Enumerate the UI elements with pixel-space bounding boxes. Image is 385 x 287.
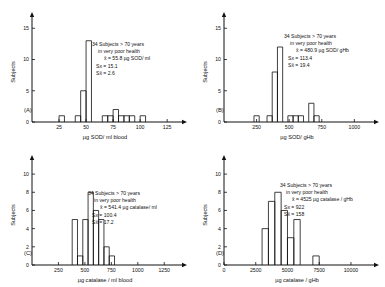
panel-annotation-line: in very poor health bbox=[94, 197, 136, 203]
y-tick-label: 5 bbox=[218, 88, 221, 94]
histogram-bar bbox=[313, 256, 319, 265]
x-axis-arrow bbox=[374, 263, 379, 267]
panel-c-plot: 250500750100012500246810µg catalase / ml… bbox=[0, 143, 193, 287]
y-tick-label: 8 bbox=[26, 189, 29, 195]
y-axis-arrow bbox=[30, 12, 34, 17]
histogram-bar bbox=[99, 220, 104, 265]
histogram-bar bbox=[288, 116, 293, 122]
histogram-bar bbox=[77, 256, 82, 265]
histogram-bar bbox=[268, 201, 274, 265]
panel-annotation-line: x̄ = 55.8 µg SOD/ ml bbox=[104, 55, 150, 61]
y-axis-arrow bbox=[30, 155, 34, 160]
panel-annotation-line: in very poor health bbox=[286, 189, 328, 195]
histogram-bar bbox=[314, 116, 319, 122]
y-tick-label: 6 bbox=[26, 207, 29, 213]
histogram-bar bbox=[262, 229, 268, 265]
panel-annotation-line: 34 Subjects > 70 years bbox=[284, 33, 336, 39]
y-axis-arrow bbox=[222, 155, 226, 160]
y-tick-label: 10 bbox=[23, 56, 29, 62]
histogram-bar bbox=[277, 47, 282, 122]
histogram-bar bbox=[109, 256, 114, 265]
x-tick-label: 50 bbox=[83, 124, 89, 130]
panel-annotation-line: x̄ = 480.9 µg SOD/ gHb bbox=[296, 47, 349, 53]
panel-annotation-line: Sx = 15.1 bbox=[96, 63, 118, 69]
panel-label: (B) bbox=[216, 107, 224, 113]
x-tick-label: 125 bbox=[163, 124, 172, 130]
x-axis-title: µg catalase / gHb bbox=[275, 277, 319, 283]
y-tick-label: 0 bbox=[26, 119, 29, 125]
x-tick-label: 2500 bbox=[250, 267, 262, 273]
histogram-bar bbox=[298, 116, 303, 122]
panel-b-plot: 2505007501000051015µg SOD/ gHbSubjects(B… bbox=[192, 0, 385, 144]
panel-label: (A) bbox=[24, 107, 32, 113]
histogram-bar bbox=[108, 116, 113, 122]
histogram-bar bbox=[124, 116, 129, 122]
panel-label: (C) bbox=[24, 250, 32, 256]
y-tick-label: 2 bbox=[26, 244, 29, 250]
histogram-bar bbox=[59, 116, 64, 122]
x-tick-label: 500 bbox=[81, 267, 90, 273]
x-tick-label: 750 bbox=[107, 267, 116, 273]
x-tick-label: 0 bbox=[223, 267, 226, 273]
histogram-bar bbox=[102, 116, 107, 122]
y-tick-label: 0 bbox=[218, 119, 221, 125]
panel-annotation-line: in very poor health bbox=[98, 48, 140, 54]
histogram-bar bbox=[129, 116, 134, 122]
histogram-bar bbox=[294, 220, 300, 265]
panel-label: (D) bbox=[216, 250, 224, 256]
x-axis-arrow bbox=[374, 120, 379, 124]
histogram-bar bbox=[75, 116, 80, 122]
x-tick-label: 1250 bbox=[158, 267, 170, 273]
panel-annotation-line: Sx̄ = 158 bbox=[284, 211, 304, 217]
histogram-bar bbox=[267, 116, 272, 122]
x-tick-label: 5000 bbox=[282, 267, 294, 273]
y-tick-label: 5 bbox=[26, 88, 29, 94]
histogram-bar bbox=[72, 220, 77, 265]
histogram-bar bbox=[272, 72, 277, 122]
histogram-bar bbox=[309, 103, 314, 122]
y-tick-label: 2 bbox=[218, 244, 221, 250]
y-axis-arrow bbox=[222, 12, 226, 17]
x-axis-title: µg SOD/ ml blood bbox=[83, 134, 127, 140]
panel-annotation-line: Sx = 100.4 bbox=[92, 212, 117, 218]
x-tick-label: 250 bbox=[54, 267, 63, 273]
histogram-bar bbox=[119, 116, 124, 122]
x-tick-label: 1000 bbox=[132, 267, 144, 273]
x-axis-title: µg SOD/ gHb bbox=[280, 134, 313, 140]
panel-annotation-line: 34 Subjects > 70 years bbox=[88, 190, 140, 196]
histogram-bar bbox=[83, 220, 88, 265]
panel-annotation-line: Sx̄ = 19.4 bbox=[288, 62, 310, 68]
y-tick-label: 15 bbox=[215, 25, 221, 31]
y-tick-label: 0 bbox=[218, 262, 221, 268]
y-tick-label: 15 bbox=[23, 25, 29, 31]
histogram-bar bbox=[293, 116, 298, 122]
x-tick-label: 75 bbox=[110, 124, 116, 130]
histogram-bar bbox=[86, 41, 91, 122]
y-tick-label: 10 bbox=[215, 171, 221, 177]
y-axis-title: Subjects bbox=[10, 61, 16, 83]
histogram-bar bbox=[140, 116, 145, 122]
x-tick-label: 100 bbox=[136, 124, 145, 130]
y-tick-label: 6 bbox=[218, 207, 221, 213]
panel-annotation-line: Sx̄ = 2.6 bbox=[96, 70, 115, 76]
x-tick-label: 10000 bbox=[344, 267, 359, 273]
histogram-bar bbox=[281, 210, 287, 265]
panel-d: 0250050007500100000246810µg catalase / g… bbox=[192, 143, 385, 287]
histogram-bar bbox=[81, 91, 86, 122]
panel-annotation-line: 34 Subjects > 70 years bbox=[280, 182, 332, 188]
x-tick-label: 7500 bbox=[313, 267, 325, 273]
y-tick-label: 10 bbox=[215, 56, 221, 62]
y-tick-label: 8 bbox=[218, 189, 221, 195]
y-tick-label: 4 bbox=[26, 226, 29, 232]
y-tick-label: 0 bbox=[26, 262, 29, 268]
x-tick-label: 500 bbox=[285, 124, 294, 130]
x-tick-label: 750 bbox=[317, 124, 326, 130]
x-tick-label: 250 bbox=[252, 124, 261, 130]
x-axis-title: µg catalase / ml blood bbox=[78, 277, 133, 283]
panel-b: 2505007501000051015µg SOD/ gHbSubjects(B… bbox=[192, 0, 385, 144]
y-axis-title: Subjects bbox=[202, 204, 208, 226]
histogram-bar bbox=[113, 110, 118, 123]
panel-d-plot: 0250050007500100000246810µg catalase / g… bbox=[192, 143, 385, 287]
panel-annotation-line: in very poor health bbox=[290, 40, 332, 46]
x-tick-label: 25 bbox=[56, 124, 62, 130]
